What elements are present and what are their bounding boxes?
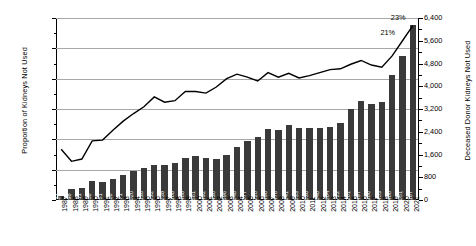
x-axis-label-slot: 2011 bbox=[304, 202, 314, 246]
x-axis-label-slot: 2017 bbox=[366, 202, 376, 246]
x-axis-label-slot: 2012 bbox=[315, 202, 325, 246]
y-axis-right-minor-tickmark bbox=[419, 120, 422, 121]
y-axis-right-tick-label: 6,400 bbox=[424, 13, 468, 22]
x-axis-label-slot: 2000 bbox=[190, 202, 200, 246]
x-axis-label-slot: 2014 bbox=[335, 202, 345, 246]
y-axis-right-tick-label: 800 bbox=[424, 172, 468, 181]
y-axis-right-tick-label: 0 bbox=[424, 195, 468, 204]
y-axis-right-tick-label: 2,400 bbox=[424, 127, 468, 136]
x-axis-label-slot: 1991 bbox=[97, 202, 107, 246]
x-axis-label-slot: 2019 bbox=[387, 202, 397, 246]
y-axis-right-tickmark bbox=[419, 86, 423, 87]
x-axis-label-slot: 2009 bbox=[284, 202, 294, 246]
x-axis-label-slot: 1996 bbox=[149, 202, 159, 246]
y-axis-right-minor-tickmark bbox=[419, 75, 422, 76]
plot-area: 0%4%8%12%16%20%24% 08001,6002,4003,2004,… bbox=[56, 18, 418, 200]
x-axis-label-slot: 2001 bbox=[201, 202, 211, 246]
x-axis-label-slot: 2018 bbox=[377, 202, 387, 246]
x-axis-label-slot: 2003 bbox=[222, 202, 232, 246]
x-axis-label-slot: 2015 bbox=[346, 202, 356, 246]
y-axis-right-tickmark bbox=[419, 18, 423, 19]
x-axis-label-slot: 1987 bbox=[56, 202, 66, 246]
y-axis-right-minor-tickmark bbox=[419, 166, 422, 167]
y-axis-right-tick-label: 5,600 bbox=[424, 36, 468, 45]
x-axis-label-slot: 2004 bbox=[232, 202, 242, 246]
x-axis-label-slot: 1993 bbox=[118, 202, 128, 246]
x-axis-label-slot: 1998 bbox=[170, 202, 180, 246]
y-axis-right-tickmark bbox=[419, 41, 423, 42]
x-axis-label-slot: 1997 bbox=[159, 202, 169, 246]
x-axis-label-slot: 2013 bbox=[325, 202, 335, 246]
x-axis-tick-label: 2021 bbox=[413, 196, 420, 212]
x-axis-label-slot: 1988 bbox=[66, 202, 76, 246]
y-axis-right-minor-tickmark bbox=[419, 52, 422, 53]
x-axis-label-slot: 1992 bbox=[108, 202, 118, 246]
x-axis-label-slot: 2021 bbox=[408, 202, 418, 246]
x-axis-label-slot: 2006 bbox=[253, 202, 263, 246]
x-axis-label-slot: 1999 bbox=[180, 202, 190, 246]
line-series bbox=[56, 18, 418, 200]
x-axis-label-slot: 1994 bbox=[128, 202, 138, 246]
x-axis-label-slot: 2005 bbox=[242, 202, 252, 246]
x-axis-label-slot: 1989 bbox=[77, 202, 87, 246]
x-axis-labels: 1987198819891990199119921993199419951996… bbox=[56, 202, 418, 246]
x-axis-label-slot: 2007 bbox=[263, 202, 273, 246]
trend-line bbox=[61, 26, 413, 162]
y-axis-right-tickmark bbox=[419, 155, 423, 156]
y-axis-right-tickmark bbox=[419, 109, 423, 110]
data-annotation: 21% bbox=[380, 28, 395, 37]
y-axis-right-tickmark bbox=[419, 64, 423, 65]
y-axis-right-minor-tickmark bbox=[419, 189, 422, 190]
x-axis-label-slot: 2010 bbox=[294, 202, 304, 246]
y-axis-right-minor-tickmark bbox=[419, 29, 422, 30]
x-axis-label-slot: 2002 bbox=[211, 202, 221, 246]
y-axis-right-minor-tickmark bbox=[419, 98, 422, 99]
data-annotation: 23% bbox=[391, 13, 406, 22]
y-axis-right-minor-tickmark bbox=[419, 143, 422, 144]
y-axis-right-tick-label: 1,600 bbox=[424, 150, 468, 159]
kidney-discard-chart: Proportion of Kidneys Not Used Deceased … bbox=[0, 0, 476, 246]
x-axis-label-slot: 2020 bbox=[397, 202, 407, 246]
y-axis-right-spine bbox=[418, 18, 419, 200]
y-axis-right-tickmark bbox=[419, 132, 423, 133]
y-axis-right-tick-label: 4,800 bbox=[424, 59, 468, 68]
x-axis-label-slot: 2008 bbox=[273, 202, 283, 246]
y-axis-left-title: Proportion of Kidneys Not Used bbox=[20, 31, 29, 171]
y-axis-right-tick-label: 4,000 bbox=[424, 81, 468, 90]
x-axis-label-slot: 1990 bbox=[87, 202, 97, 246]
x-axis-label-slot: 1995 bbox=[139, 202, 149, 246]
x-axis-label-slot: 2016 bbox=[356, 202, 366, 246]
y-axis-right-tick-label: 3,200 bbox=[424, 104, 468, 113]
y-axis-right-tickmark bbox=[419, 177, 423, 178]
